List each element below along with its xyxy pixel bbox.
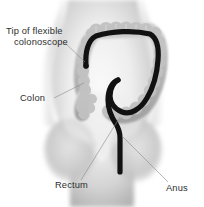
label-colon: Colon [20,93,45,103]
label-rectum: Rectum [55,180,88,190]
label-anus: Anus [166,183,188,193]
colonoscopy-figure: Tip of flexible colonoscope Colon Rectum… [0,0,204,207]
label-tip-of-flexible-colonoscope: Tip of flexible colonoscope [6,26,68,47]
label-line-1: Tip of flexible [6,26,63,36]
anatomical-illustration: Tip of flexible colonoscope Colon Rectum… [0,0,204,207]
label-line-2: colonoscope [14,37,68,47]
colonoscope-tip [83,63,88,68]
